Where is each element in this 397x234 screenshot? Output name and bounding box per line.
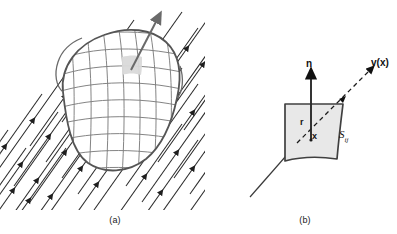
streamline	[174, 132, 246, 234]
streamline	[174, 76, 246, 178]
streamline	[190, 92, 262, 194]
velocity-vector-label: v(x)	[371, 57, 389, 68]
streamline	[0, 94, 42, 196]
panel-caption-a: (a)	[95, 215, 135, 225]
radius-label: r	[300, 117, 304, 127]
figure-canvas	[0, 0, 397, 234]
normal-vector-label: n	[306, 58, 312, 69]
surface-subscript: ij	[345, 136, 349, 144]
streamline	[16, 144, 88, 234]
surface-symbol: S	[339, 128, 345, 140]
streamline	[0, 68, 70, 170]
streamline	[158, 116, 230, 218]
streamline	[0, 138, 50, 234]
panel-caption-b: (b)	[285, 215, 325, 225]
surface-patch-label: Sij	[339, 128, 348, 143]
highlighted-surface-element	[122, 56, 142, 76]
point-label: x	[312, 131, 317, 141]
streamline	[0, 148, 66, 234]
streamline	[184, 28, 256, 130]
figure-container: n v(x) r x Sij (a) (b)	[0, 0, 397, 234]
